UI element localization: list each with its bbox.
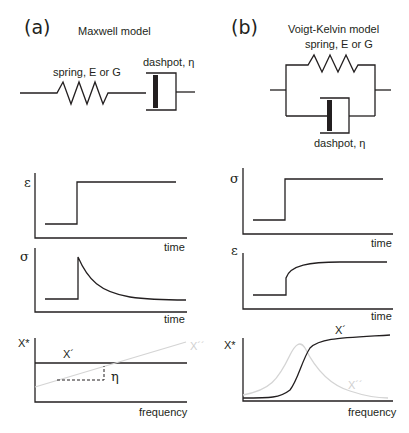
maxwell-title: Maxwell model: [78, 26, 151, 37]
voigt-spring-label: spring, E or G: [305, 39, 373, 50]
maxwell-schematic: [20, 73, 195, 110]
panel-label-b: (b): [231, 18, 258, 37]
panel-label-a: (a): [24, 18, 50, 37]
voigt-dashpot-label: dashpot, η: [314, 138, 365, 149]
b-xprime-label: X´: [335, 325, 346, 336]
b-plot3-frequency: [243, 335, 393, 401]
a-plot2-xlabel: time: [164, 314, 185, 325]
maxwell-dashpot-cylinder: [146, 73, 176, 110]
diagram-canvas: [0, 0, 409, 433]
a-slope-label: η: [111, 370, 119, 383]
voigt-schematic: [270, 55, 391, 133]
b-plot2-ylabel: ε: [231, 244, 238, 257]
voigt-dashpot-piston: [327, 100, 332, 131]
b-plot1-stress: [243, 168, 393, 234]
maxwell-spring: [20, 82, 146, 104]
a-plot1-ylabel: ε: [24, 176, 31, 189]
b-plot1-xlabel: time: [371, 238, 392, 249]
maxwell-dashpot-piston: [153, 75, 158, 108]
a-plot1-strain: [35, 173, 187, 238]
b-plot3-ylabel: X*: [224, 340, 236, 351]
a-plot2-stress: [35, 248, 187, 312]
b-plot2-strain: [243, 253, 393, 309]
b-plot1-ylabel: σ: [230, 172, 239, 185]
a-xdoubleprime-label: X´´: [190, 341, 205, 352]
a-plot2-ylabel: σ: [20, 250, 29, 263]
maxwell-dashpot-label: dashpot, η: [143, 57, 194, 68]
b-xdoubleprime-curve: [243, 344, 388, 398]
b-xdoubleprime-label: X´´: [348, 380, 363, 391]
voigt-title: Voigt-Kelvin model: [288, 24, 379, 35]
b-plot2-xlabel: time: [371, 311, 392, 322]
b-plot3-xlabel: frequency: [348, 407, 396, 418]
a-plot3-ylabel: X*: [18, 338, 30, 349]
maxwell-spring-label: spring, E or G: [53, 67, 121, 78]
a-plot1-xlabel: time: [164, 242, 185, 253]
a-plot3-xlabel: frequency: [139, 407, 187, 418]
a-xprime-label: X´: [63, 349, 74, 360]
